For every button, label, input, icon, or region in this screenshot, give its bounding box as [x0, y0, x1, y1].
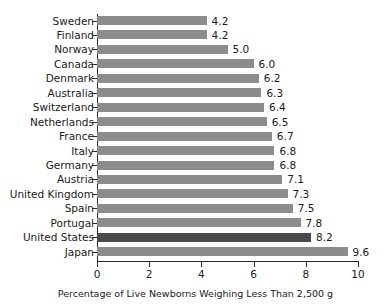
- x-tick-label: 8: [291, 269, 321, 280]
- bar-value-label: 6.2: [264, 73, 281, 83]
- category-label: Netherlands: [0, 117, 94, 127]
- category-label: Italy: [0, 146, 94, 156]
- bar-value-label: 6.3: [266, 88, 283, 98]
- y-tick-mark: [92, 252, 97, 253]
- bar: [97, 146, 274, 155]
- x-tick-label: 10: [343, 269, 373, 280]
- bar: [97, 175, 282, 184]
- category-label: United States: [0, 232, 94, 242]
- x-axis-title: Percentage of Live Newborns Weighing Les…: [0, 288, 391, 299]
- bar-chart: Sweden4.2Finland4.2Norway5.0Canada6.0Den…: [0, 0, 391, 306]
- x-tick-label: 2: [134, 269, 164, 280]
- x-tick-mark: [201, 262, 202, 267]
- category-label: Norway: [0, 44, 94, 54]
- bar: [97, 30, 207, 39]
- y-tick-mark: [92, 64, 97, 65]
- y-tick-mark: [92, 237, 97, 238]
- category-label: Germany: [0, 160, 94, 170]
- x-tick-mark: [358, 262, 359, 267]
- x-tick-label: 0: [82, 269, 112, 280]
- category-label: Finland: [0, 30, 94, 40]
- x-tick-label: 6: [239, 269, 269, 280]
- bar: [97, 103, 264, 112]
- category-label: United Kingdom: [0, 189, 94, 199]
- bar-value-label: 5.0: [233, 44, 250, 54]
- bar-value-label: 6.7: [277, 131, 294, 141]
- x-tick-mark: [97, 262, 98, 267]
- bar-value-label: 9.6: [353, 247, 370, 257]
- bar: [97, 247, 348, 256]
- category-label: Denmark: [0, 73, 94, 83]
- y-tick-mark: [92, 107, 97, 108]
- category-label: Austria: [0, 174, 94, 184]
- x-tick-label: 4: [186, 269, 216, 280]
- bar-highlighted: [97, 233, 311, 242]
- category-label: Australia: [0, 88, 94, 98]
- bar-value-label: 4.2: [212, 16, 229, 26]
- category-label: Canada: [0, 59, 94, 69]
- category-label: France: [0, 131, 94, 141]
- bar: [97, 117, 267, 126]
- bar-value-label: 7.5: [298, 203, 315, 213]
- y-tick-mark: [92, 122, 97, 123]
- y-tick-mark: [92, 21, 97, 22]
- y-tick-mark: [92, 194, 97, 195]
- bar-value-label: 8.2: [316, 232, 333, 242]
- bar: [97, 204, 293, 213]
- bar-value-label: 7.3: [293, 189, 310, 199]
- category-label: Spain: [0, 203, 94, 213]
- bar: [97, 45, 228, 54]
- bar: [97, 161, 274, 170]
- y-tick-mark: [92, 223, 97, 224]
- x-tick-mark: [306, 262, 307, 267]
- plot-area: Sweden4.2Finland4.2Norway5.0Canada6.0Den…: [0, 0, 391, 306]
- category-label: Japan: [0, 247, 94, 257]
- x-axis-line: [97, 261, 359, 262]
- y-tick-mark: [92, 151, 97, 152]
- x-tick-mark: [254, 262, 255, 267]
- bar-value-label: 4.2: [212, 30, 229, 40]
- y-tick-mark: [92, 208, 97, 209]
- bar: [97, 218, 301, 227]
- category-label: Switzerland: [0, 102, 94, 112]
- bar: [97, 59, 254, 68]
- bar: [97, 88, 261, 97]
- y-tick-mark: [92, 179, 97, 180]
- y-tick-mark: [92, 35, 97, 36]
- y-tick-mark: [92, 136, 97, 137]
- bar-value-label: 7.1: [287, 174, 304, 184]
- bar: [97, 74, 259, 83]
- bar-value-label: 6.4: [269, 102, 286, 112]
- bar: [97, 16, 207, 25]
- bar-value-label: 6.8: [279, 146, 296, 156]
- x-tick-mark: [149, 262, 150, 267]
- y-tick-mark: [92, 49, 97, 50]
- bar-value-label: 6.5: [272, 117, 289, 127]
- bar: [97, 132, 272, 141]
- bar-value-label: 7.8: [306, 218, 323, 228]
- y-tick-mark: [92, 78, 97, 79]
- category-label: Portugal: [0, 218, 94, 228]
- bar-value-label: 6.0: [259, 59, 276, 69]
- bar: [97, 189, 288, 198]
- y-tick-mark: [92, 165, 97, 166]
- bar-value-label: 6.8: [279, 160, 296, 170]
- category-label: Sweden: [0, 16, 94, 26]
- y-tick-mark: [92, 93, 97, 94]
